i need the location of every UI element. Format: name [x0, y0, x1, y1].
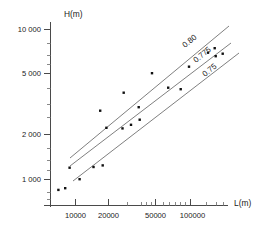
- y-tick-label-1000: 1 000: [22, 175, 41, 184]
- data-point: [102, 164, 104, 166]
- chart-figure: 10 000 5 000 2 000 1 000 10000 20000 500…: [0, 0, 268, 242]
- x-tick-label-10000: 10000: [65, 211, 86, 220]
- data-point: [68, 167, 70, 169]
- data-point: [207, 52, 209, 54]
- data-point: [130, 124, 132, 126]
- y-tick-label-10000: 10 000: [18, 25, 41, 34]
- x-axis-title: L(m): [234, 198, 251, 208]
- chart-svg: 10 000 5 000 2 000 1 000 10000 20000 500…: [0, 0, 268, 242]
- data-point: [188, 66, 190, 68]
- data-point: [214, 47, 216, 49]
- data-point: [139, 119, 141, 121]
- x-tick-label-20000: 20000: [98, 211, 119, 220]
- data-point: [167, 87, 169, 89]
- x-tick-label-50000: 50000: [145, 211, 166, 220]
- data-point: [121, 127, 123, 129]
- data-point: [215, 55, 217, 57]
- data-point: [222, 53, 224, 55]
- data-point: [123, 92, 125, 94]
- data-point: [64, 187, 66, 189]
- data-point: [151, 72, 153, 74]
- data-point: [99, 110, 101, 112]
- y-tick-label-2000: 2 000: [22, 130, 41, 139]
- data-point: [105, 127, 107, 129]
- data-point: [78, 178, 80, 180]
- data-point: [57, 189, 59, 191]
- y-tick-label-5000: 5 000: [22, 69, 41, 78]
- y-axis-title: H(m): [64, 9, 83, 19]
- x-tick-label-100000: 100000: [180, 211, 205, 220]
- data-point: [138, 106, 140, 108]
- data-point: [180, 88, 182, 90]
- data-point: [92, 166, 94, 168]
